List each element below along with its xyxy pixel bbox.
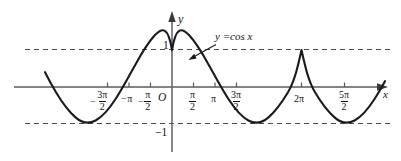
xtick-sign: − — [138, 97, 144, 107]
graph-canvas — [0, 0, 401, 161]
xtick-label-3pi-over-2: 3π 2 — [230, 91, 242, 113]
xtick-fraction: π 2 — [189, 90, 196, 112]
xtick-sign: − — [121, 94, 127, 104]
xtick-label-pi: π — [211, 94, 216, 104]
xtick-denominator: 2 — [233, 101, 240, 112]
y-axis-label: y — [178, 13, 183, 25]
xtick-label-minus-pi-over-2: − π 2 — [138, 91, 151, 113]
xtick-fraction: 3π 2 — [230, 90, 242, 112]
xtick-label-minus-pi: − π — [121, 94, 132, 104]
xtick-numerator: 3π — [96, 90, 108, 100]
xtick-label-2pi: 2π — [294, 94, 304, 104]
xtick-fraction: 5π 2 — [338, 90, 350, 112]
origin-label: O — [158, 92, 166, 104]
y-min-label: −1 — [155, 127, 167, 139]
xtick-fraction: π 2 — [144, 90, 151, 112]
xtick-fraction: 3π 2 — [96, 90, 108, 112]
xtick-denominator: 2 — [341, 101, 348, 112]
xtick-numerator: 3π — [230, 90, 242, 100]
x-axis-label: x — [383, 89, 388, 100]
curve-equation-label: y =cos x — [215, 31, 252, 42]
y-max-label: 1 — [163, 40, 169, 52]
xtick-numerator: π — [189, 90, 196, 100]
curve-label-leader-arrow-icon — [189, 45, 217, 61]
cosine-graph-figure: y x O 1 −1 y =cos x − 3π 2 − π − π 2 π 2 — [0, 0, 401, 161]
y-axis-arrow-icon — [168, 11, 175, 22]
xtick-text: π — [127, 94, 132, 104]
xtick-sign: − — [90, 97, 96, 107]
xtick-text: π — [211, 94, 216, 104]
xtick-numerator: 5π — [338, 90, 350, 100]
xtick-label-pi-over-2: π 2 — [189, 91, 196, 113]
xtick-denominator: 2 — [144, 101, 151, 112]
xtick-text: 2π — [294, 94, 304, 104]
xtick-denominator: 2 — [189, 101, 196, 112]
xtick-label-5pi-over-2: 5π 2 — [338, 91, 350, 113]
xtick-label-minus-3pi-over-2: − 3π 2 — [90, 91, 108, 113]
xtick-numerator: π — [144, 90, 151, 100]
xtick-denominator: 2 — [99, 101, 106, 112]
